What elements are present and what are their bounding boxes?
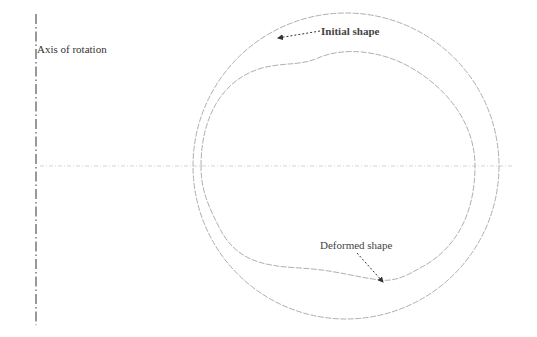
deformed-shape-label: Deformed shape xyxy=(320,239,392,251)
deformed-shape-leader xyxy=(357,253,383,282)
initial-shape-label: Initial shape xyxy=(321,25,379,37)
initial-shape-leader xyxy=(278,31,320,38)
axis-of-rotation-label: Axis of rotation xyxy=(37,43,107,55)
